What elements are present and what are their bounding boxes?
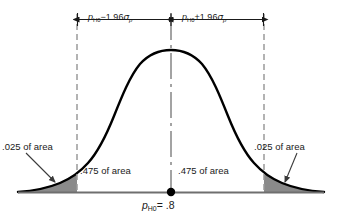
right-acceptance-area-label: .475 of area [178, 166, 229, 176]
upper-label-operator: +1.96 [195, 12, 218, 22]
upper-critical-value-label: pH0+1.96σp [182, 13, 226, 24]
right-tail-leader-line [285, 153, 297, 182]
lower-critical-value-label: pH0−1.96σp [88, 13, 132, 24]
left-tail-area-label: .025 of area [2, 142, 53, 152]
upper-label-base-subscript: H0 [187, 17, 195, 23]
mean-label-equals: = .8 [157, 199, 175, 211]
mean-point-marker [167, 188, 175, 196]
mean-label-subscript: H0 [148, 205, 157, 212]
right-tail-shading [264, 172, 323, 192]
mean-value-label: pH0= .8 [142, 200, 175, 213]
lower-label-operator: −1.96 [101, 12, 124, 22]
distribution-plot [0, 0, 342, 218]
lower-label-base-subscript: H0 [93, 17, 101, 23]
right-tail-area-label: .025 of area [254, 142, 305, 152]
normal-distribution-figure: .025 of area .025 of area .475 of area .… [0, 0, 342, 218]
upper-label-sigma-subscript: p [223, 17, 226, 23]
left-tail-leader-line [26, 153, 55, 182]
left-acceptance-area-label: .475 of area [80, 166, 131, 176]
lower-label-sigma-subscript: p [129, 17, 132, 23]
